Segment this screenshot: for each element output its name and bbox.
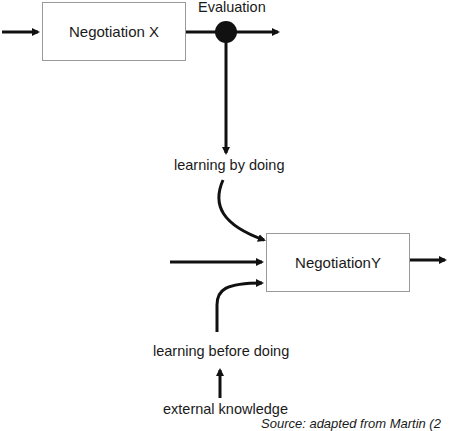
learning-by-doing-label: learning by doing [174, 157, 284, 173]
evaluation-node [215, 21, 237, 43]
source-caption: Source: adapted from Martin (2 [261, 416, 441, 431]
learning-before-doing-curve [217, 283, 262, 332]
negotiation-y-box: NegotiationY [266, 233, 410, 292]
negotiation-x-box: Negotiation X [42, 2, 186, 61]
evaluation-label: Evaluation [198, 0, 266, 15]
learning-before-doing-label: learning before doing [153, 343, 289, 359]
learning-by-doing-curve [219, 180, 264, 240]
negotiation-x-label: Negotiation X [69, 23, 159, 40]
external-knowledge-label: external knowledge [163, 401, 288, 417]
negotiation-y-label: NegotiationY [295, 254, 381, 271]
